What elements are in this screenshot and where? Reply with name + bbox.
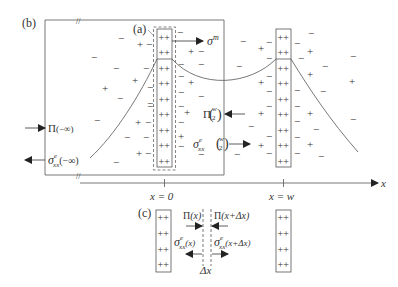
svg-text:++: ++ [278,47,290,58]
svg-text:−: − [234,148,240,160]
svg-text:−: − [113,156,119,168]
svg-text:++: ++ [278,109,290,120]
svg-text:−: − [294,115,300,127]
svg-text:−: − [320,85,326,97]
svg-text:(: ( [209,107,214,123]
pi-x-label: Π(x) [183,210,202,222]
svg-text:−: − [294,147,300,159]
svg-text:++: ++ [278,63,290,74]
sigma-e-minus-inf-label: σexx(−∞) [48,152,79,169]
svg-text:−: − [266,100,272,112]
svg-text:): ) [217,107,222,123]
svg-text:++: ++ [278,259,290,270]
svg-text:−: − [178,86,184,98]
svg-text:+: + [188,76,194,88]
svg-text:−: − [145,147,151,159]
svg-text:+: + [102,82,108,94]
svg-text:+: + [349,75,355,87]
svg-text:−: − [91,51,97,63]
x-axis-label: x [380,177,386,189]
svg-text:+: + [136,147,142,159]
svg-text:++: ++ [278,32,290,43]
svg-text:−: − [177,26,183,38]
break-mark-top: // [76,17,81,26]
svg-text:−: − [350,113,356,125]
svg-text:++: ++ [158,259,170,270]
svg-text:−: − [294,100,300,112]
svg-text:++: ++ [159,32,171,43]
svg-text:−: − [198,90,204,102]
svg-text:−: − [94,114,100,126]
sigma-e-x-label: σexx(x) [174,234,195,251]
svg-text:+: + [188,45,194,57]
svg-text:−: − [143,62,149,74]
svg-text:++: ++ [159,78,171,89]
svg-text:−: − [248,120,254,132]
svg-text:+: + [137,38,143,50]
svg-text:++: ++ [159,156,171,167]
svg-text:−: − [178,58,184,70]
svg-text:−: − [266,36,272,48]
svg-text:++: ++ [278,228,290,239]
sigma-e-w2-label: σexx [193,136,205,153]
svg-text:−: − [266,70,272,82]
svg-text:−: − [308,27,314,39]
svg-text:+: + [258,42,264,54]
svg-text:−: − [124,131,130,143]
x-axis [80,179,378,187]
svg-text:−: − [266,85,272,97]
tick-label-xw: x = w [268,190,295,202]
svg-text:++: ++ [159,125,171,136]
svg-text:++: ++ [278,78,290,89]
svg-text:++: ++ [159,94,171,105]
svg-text:+: + [132,74,138,86]
svg-text:++: ++ [159,63,171,74]
svg-text:−: − [236,60,242,72]
svg-text:+: + [184,106,190,118]
svg-text:++: ++ [158,244,170,255]
svg-text:++: ++ [158,212,170,223]
svg-text:−: − [294,131,300,143]
panel-a-label: (a) [133,22,146,36]
pi-x-dx-label: Π(x+Δx) [214,210,250,222]
svg-text:++: ++ [278,156,290,167]
svg-text:): ) [224,136,229,152]
svg-text:−: − [145,116,151,128]
svg-text:2: 2 [219,144,223,152]
svg-text:−: − [117,92,123,104]
svg-text:−: − [294,37,300,49]
svg-text:−: − [118,32,124,44]
svg-text:++: ++ [278,140,290,151]
break-mark-bottom: // [76,172,81,181]
svg-text:+: + [258,139,264,151]
svg-text:−: − [178,116,184,128]
tick-label-x0: x = 0 [149,190,174,202]
diagram-canvas: (b) // // x x = 0 x = w (a) ++++++ +++++… [0,0,398,287]
svg-text:−: − [113,62,119,74]
svg-text:+: + [307,138,313,150]
sigma-e-x-dx-label: σexx(x+Δx) [214,234,251,251]
svg-text:++: ++ [159,140,171,151]
svg-text:−: − [318,150,324,162]
svg-text:++: ++ [278,94,290,105]
svg-text:−: − [266,147,272,159]
svg-text:+: + [307,45,313,57]
svg-text:+: + [307,68,313,80]
svg-text:++: ++ [159,47,171,58]
panel-c-label: (c) [138,206,151,220]
svg-text:−: − [322,60,328,72]
svg-text:−: − [294,84,300,96]
svg-text:+: + [135,116,141,128]
svg-text:−: − [298,52,304,64]
svg-text:−: − [350,50,356,62]
svg-text:++: ++ [278,125,290,136]
svg-text:+: + [307,107,313,119]
pi-minus-inf-label: Π(−∞) [48,122,73,134]
delta-x-label: Δx [199,264,211,276]
svg-text:−: − [198,58,204,70]
svg-text:++: ++ [278,244,290,255]
svg-text:++: ++ [278,212,290,223]
svg-text:−: − [178,140,184,152]
svg-text:−: − [147,100,153,112]
svg-text:+: + [258,76,264,88]
